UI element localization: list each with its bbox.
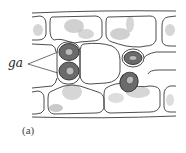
ga-leader-line xyxy=(28,64,58,73)
nucleus xyxy=(129,56,137,61)
tissue-top-border xyxy=(32,11,176,13)
tissue-bottom-border xyxy=(32,116,176,118)
ga-leader-line xyxy=(28,52,58,64)
nucleus xyxy=(66,67,74,75)
large-central-cell xyxy=(80,43,120,84)
epidermal-cell xyxy=(144,52,176,74)
panel-label: (a) xyxy=(22,124,34,136)
epidermal-cell xyxy=(32,91,44,114)
nucleus xyxy=(65,49,73,56)
guard-cell-label: ga xyxy=(8,56,23,70)
guard-cell-pair-left xyxy=(57,42,80,84)
